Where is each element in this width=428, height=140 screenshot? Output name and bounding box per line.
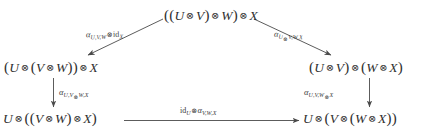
node-top: ((U⊗V)⊗W)⊗X <box>164 8 258 23</box>
node-bottom-right: U⊗(V⊗(W⊗X)) <box>303 111 397 126</box>
commutative-diagram-canvas: ((U⊗V)⊗W)⊗X (U⊗(V⊗W))⊗X (U⊗V)⊗(W⊗X) U⊗((… <box>0 0 428 140</box>
edge-label-bottom-horizontal: idU⊗αV,W,X <box>180 106 217 116</box>
node-bottom-left: U⊗((V⊗W)⊗X) <box>3 111 97 126</box>
edge-label-top-to-left: αU,V,W⊗idX <box>86 30 123 41</box>
edge-label-right-vertical: αU,V,W⊗X <box>304 88 333 100</box>
edge-label-top-to-right: αU⊗V,W,X <box>274 30 303 42</box>
node-middle-right: (U⊗V)⊗(W⊗X) <box>309 60 403 75</box>
edge-label-left-vertical: αU,V⊗W,X <box>59 88 89 100</box>
node-middle-left: (U⊗(V⊗W))⊗X <box>4 60 98 75</box>
